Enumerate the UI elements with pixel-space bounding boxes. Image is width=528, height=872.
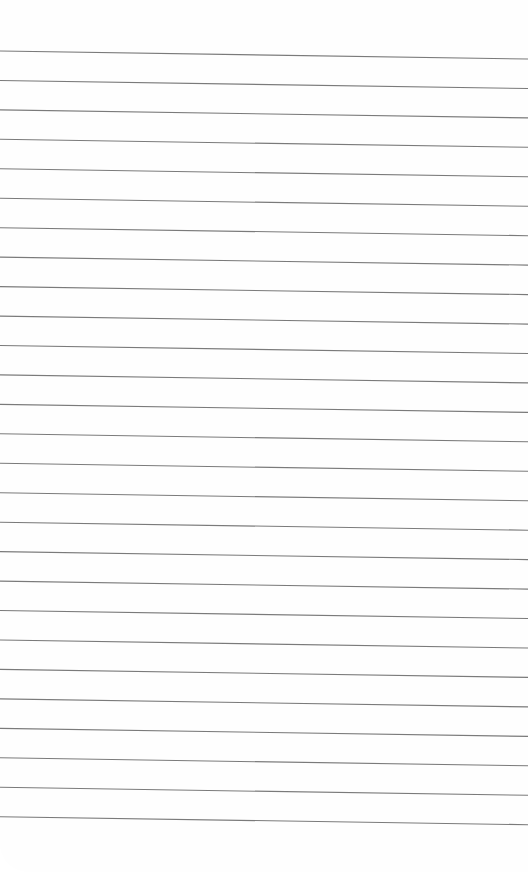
ruled-line xyxy=(0,228,528,236)
ruled-line xyxy=(0,316,528,324)
ruled-line xyxy=(0,139,528,147)
ruled-line xyxy=(0,758,528,766)
ruled-line xyxy=(0,640,528,648)
ruled-line xyxy=(0,817,528,825)
ruled-line xyxy=(0,169,528,177)
ruled-line xyxy=(0,493,528,501)
ruled-line xyxy=(0,463,528,471)
ruled-line xyxy=(0,699,528,707)
ruled-line xyxy=(0,257,528,265)
ruled-line xyxy=(0,669,528,677)
ruled-line xyxy=(0,110,528,118)
ruled-line xyxy=(0,81,528,89)
ruled-line xyxy=(0,522,528,530)
ruled-line xyxy=(0,728,528,736)
ruled-line xyxy=(0,434,528,442)
ruled-line xyxy=(0,552,528,560)
ruled-line xyxy=(0,51,528,59)
ruled-line xyxy=(0,611,528,619)
ruled-line xyxy=(0,287,528,295)
ruled-line xyxy=(0,581,528,589)
ruled-line xyxy=(0,375,528,383)
lined-paper-sheet xyxy=(0,0,528,872)
ruled-lines xyxy=(0,0,528,872)
ruled-line xyxy=(0,198,528,206)
ruled-line xyxy=(0,346,528,354)
ruled-line xyxy=(0,404,528,412)
ruled-line xyxy=(0,787,528,795)
